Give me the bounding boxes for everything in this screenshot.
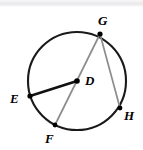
vertex-label-h: H <box>124 109 134 122</box>
point-dot-h <box>118 106 123 111</box>
vertex-label-d: D <box>85 74 94 87</box>
point-dot-g <box>97 31 102 36</box>
point-dot-f <box>53 123 58 128</box>
circle-figure <box>0 0 143 150</box>
point-dot-e <box>27 93 32 98</box>
point-dot-d <box>74 78 80 84</box>
geometry-diagram-screenshot: G E D F H <box>0 0 143 150</box>
vertex-label-e: E <box>10 92 19 105</box>
vertex-label-g: G <box>98 14 107 27</box>
vertex-label-f: F <box>45 132 54 145</box>
